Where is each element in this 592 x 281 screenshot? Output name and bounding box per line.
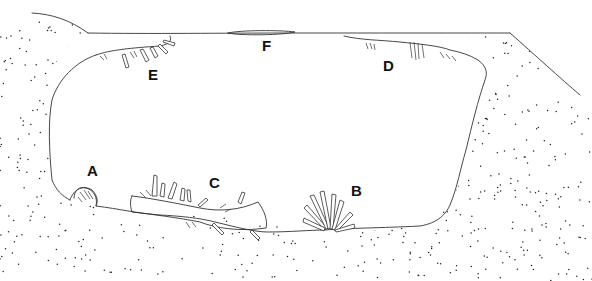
sediment-stipple <box>0 0 592 281</box>
feature-c-crust <box>131 196 267 230</box>
cave-cross-section-diagram <box>0 0 592 281</box>
feature-a-mound <box>74 187 97 206</box>
label-b: B <box>351 183 362 198</box>
feature-e-ceiling-crystals <box>100 40 175 68</box>
label-e: E <box>148 67 158 82</box>
ground-surface-left <box>32 13 88 33</box>
feature-d-ceiling-crystals <box>366 42 456 61</box>
cavity-outline <box>49 36 486 232</box>
label-f: F <box>262 38 271 53</box>
ground-surface-right <box>510 33 580 95</box>
label-a: A <box>87 163 98 178</box>
feature-b-crystal-cluster <box>303 191 355 232</box>
label-c: C <box>209 175 220 190</box>
label-d: D <box>383 58 394 73</box>
